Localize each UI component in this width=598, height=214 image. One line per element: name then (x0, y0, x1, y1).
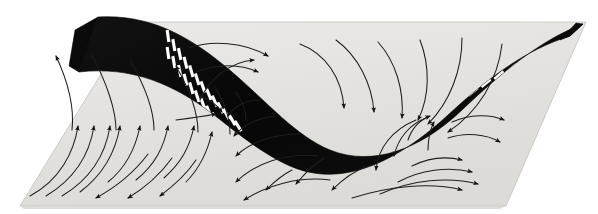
figure-container: Wavy surface with circulation flow field… (0, 0, 598, 214)
hatch-dash (173, 56, 175, 68)
hatch-dash (167, 30, 169, 42)
hatch-dash (173, 39, 175, 51)
hatch-dash (167, 47, 169, 59)
plane-bottom-edge (20, 206, 506, 209)
wave-surface-flow-diagram (0, 0, 598, 214)
